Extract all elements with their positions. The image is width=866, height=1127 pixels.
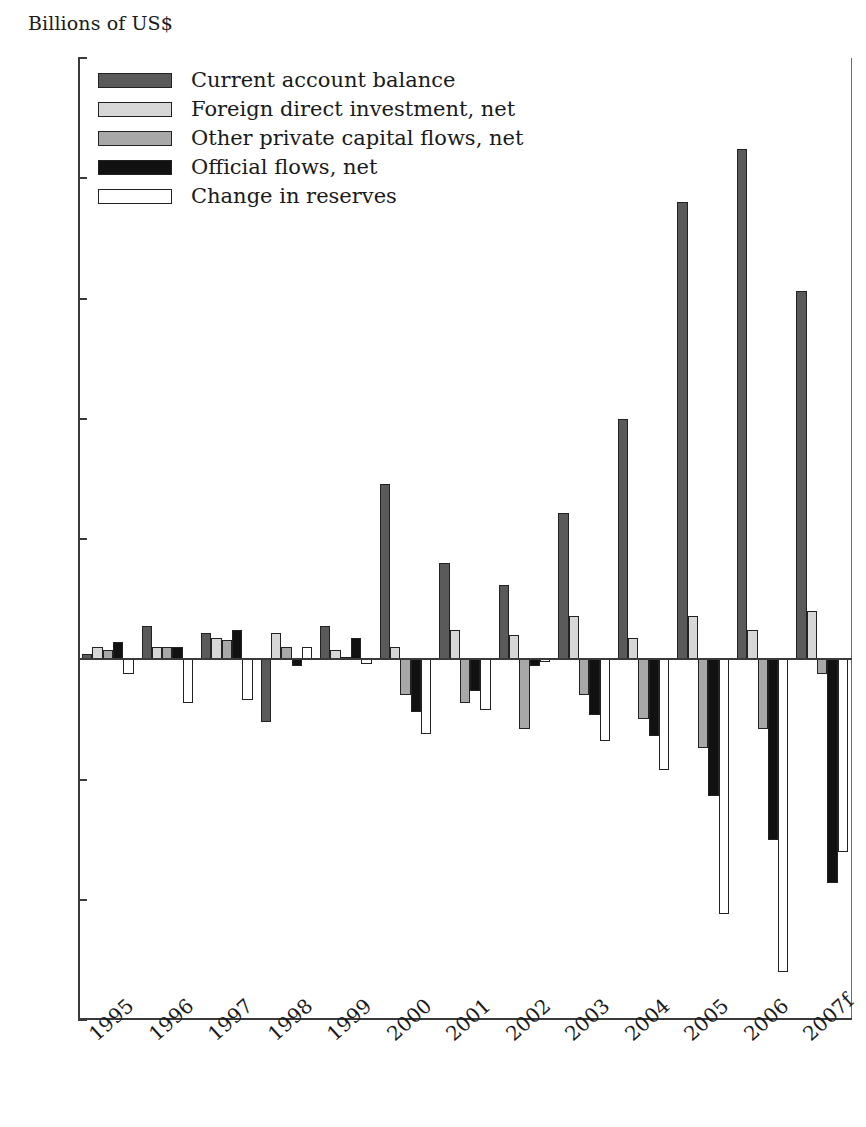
bar-2001-series-2 xyxy=(460,659,470,702)
bar-2006-series-2 xyxy=(758,659,768,729)
bar-2003-series-0 xyxy=(558,513,568,660)
legend-item-0: Current account balance xyxy=(98,66,523,95)
legend-item-1: Foreign direct investment, net xyxy=(98,95,523,124)
bar-2003-series-4 xyxy=(600,659,610,741)
legend-item-label: Official flows, net xyxy=(191,157,377,178)
bar-1996-series-0 xyxy=(142,626,152,660)
bar-2001-series-4 xyxy=(480,659,490,710)
bar-2003-series-2 xyxy=(579,659,589,695)
bar-2004-series-4 xyxy=(659,659,669,770)
bar-1998-series-3 xyxy=(292,659,302,666)
legend-item-label: Current account balance xyxy=(191,70,456,91)
bar-2005-series-4 xyxy=(719,659,729,914)
bar-2005-series-2 xyxy=(698,659,708,748)
bar-1997-series-4 xyxy=(242,659,252,700)
bar-1998-series-1 xyxy=(271,633,281,659)
legend-item-3: Official flows, net xyxy=(98,153,523,182)
legend-swatch-icon xyxy=(98,131,172,146)
bar-2004-series-2 xyxy=(638,659,648,719)
bar-1997-series-0 xyxy=(201,633,211,659)
legend-swatch-icon xyxy=(98,160,172,175)
bar-2002-series-2 xyxy=(519,659,529,729)
bar-2001-series-0 xyxy=(439,563,449,659)
bar-2006-series-3 xyxy=(768,659,778,839)
bar-1999-series-3 xyxy=(351,638,361,660)
bar-2005-series-3 xyxy=(708,659,718,796)
legend-item-label: Foreign direct investment, net xyxy=(191,99,515,120)
bar-2007f-series-3 xyxy=(827,659,837,883)
bar-2007f-series-0 xyxy=(796,291,806,659)
bar-2006-series-4 xyxy=(778,659,788,972)
legend-swatch-icon xyxy=(98,102,172,117)
bar-2004-series-1 xyxy=(628,638,638,660)
bar-1996-series-4 xyxy=(183,659,193,702)
bar-2000-series-4 xyxy=(421,659,431,734)
bar-2003-series-3 xyxy=(589,659,599,714)
bar-2005-series-1 xyxy=(688,616,698,659)
bar-1997-series-3 xyxy=(232,630,242,659)
legend-item-2: Other private capital flows, net xyxy=(98,124,523,153)
bar-2002-series-0 xyxy=(499,585,509,660)
legend-item-label: Change in reserves xyxy=(191,186,397,207)
bar-1997-series-1 xyxy=(211,638,221,660)
legend-item-4: Change in reserves xyxy=(98,182,523,211)
bar-1995-series-3 xyxy=(113,642,123,659)
legend-swatch-icon xyxy=(98,73,172,88)
bar-2007f-series-4 xyxy=(838,659,848,851)
bar-2000-series-2 xyxy=(400,659,410,695)
bar-2003-series-1 xyxy=(569,616,579,659)
bar-2002-series-3 xyxy=(530,659,540,666)
chart-figure: Billions of US$ 250200150100500−50−100−1… xyxy=(0,0,866,1127)
bar-2007f-series-2 xyxy=(817,659,827,673)
bar-2006-series-1 xyxy=(747,630,757,659)
bar-1995-series-4 xyxy=(123,659,133,673)
bar-2002-series-1 xyxy=(509,635,519,659)
chart-legend: Current account balanceForeign direct in… xyxy=(98,66,523,211)
bar-2004-series-3 xyxy=(649,659,659,736)
zero-baseline xyxy=(78,658,852,660)
bar-2000-series-3 xyxy=(411,659,421,712)
bar-2001-series-1 xyxy=(450,630,460,659)
bar-1997-series-2 xyxy=(222,640,232,659)
legend-item-label: Other private capital flows, net xyxy=(191,128,523,149)
bar-2005-series-0 xyxy=(677,202,687,659)
bar-2006-series-0 xyxy=(737,149,747,659)
bar-2001-series-3 xyxy=(470,659,480,690)
bar-2000-series-0 xyxy=(380,484,390,660)
legend-swatch-icon xyxy=(98,189,172,204)
bar-2004-series-0 xyxy=(618,419,628,660)
bar-1999-series-0 xyxy=(320,626,330,660)
bar-1998-series-0 xyxy=(261,659,271,722)
bar-2007f-series-1 xyxy=(807,611,817,659)
y-axis-unit-caption: Billions of US$ xyxy=(28,12,173,34)
